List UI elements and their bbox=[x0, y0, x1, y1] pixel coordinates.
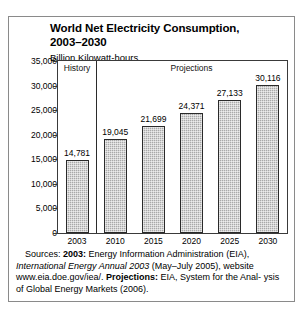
plot-area: History Projections 14,78119,04521,69924… bbox=[57, 60, 288, 234]
plot-inner: History Projections 14,78119,04521,69924… bbox=[58, 61, 287, 233]
bar-group: 19,045 bbox=[104, 61, 127, 233]
source-line1-bold: 2003: bbox=[63, 249, 86, 259]
source-line1-prefix: Sources: bbox=[25, 249, 63, 259]
bar-value-label-2015: 21,699 bbox=[140, 114, 166, 124]
page-title-line2: 2003–2030 bbox=[50, 35, 290, 49]
x-axis-labels: 200320102015202020252030 bbox=[57, 236, 288, 248]
source-line2-rest: (May–July 2005), website bbox=[149, 261, 254, 271]
x-tick-label-2015: 2015 bbox=[134, 236, 172, 247]
bar-group: 24,371 bbox=[180, 61, 203, 233]
x-tick-label-2020: 2020 bbox=[173, 236, 211, 247]
y-tick-label-25000: 25,000 bbox=[13, 105, 57, 115]
source-line3-rest: EIA, System for the Anal- bbox=[158, 272, 261, 282]
source-line2-italic: International Energy Annual 2003 bbox=[16, 261, 149, 271]
source-note: Sources: 2003: Energy Information Admini… bbox=[16, 249, 288, 295]
y-axis-labels: 05,00010,00015,00020,00025,00030,00035,0… bbox=[9, 60, 57, 234]
bar-value-label-2020: 24,371 bbox=[179, 101, 205, 111]
y-tick-label-35000: 35,000 bbox=[13, 56, 57, 66]
bar-group: 14,781 bbox=[66, 61, 89, 233]
bar-2020[interactable] bbox=[180, 113, 203, 233]
bar-2025[interactable] bbox=[218, 100, 241, 233]
x-tick-label-2025: 2025 bbox=[211, 236, 249, 247]
source-line3-bold: Projections: bbox=[106, 272, 158, 282]
bar-value-label-2010: 19,045 bbox=[102, 127, 128, 137]
page-title-line1: World Net Electricity Consumption, bbox=[50, 21, 290, 35]
chart-figure: World Net Electricity Consumption, 2003–… bbox=[8, 16, 295, 302]
bar-2003[interactable] bbox=[66, 160, 89, 233]
y-tick-label-30000: 30,000 bbox=[13, 81, 57, 91]
bar-2010[interactable] bbox=[104, 139, 127, 233]
x-tick-label-2030: 2030 bbox=[249, 236, 287, 247]
bar-group: 30,116 bbox=[256, 61, 279, 233]
y-tick-label-5000: 5,000 bbox=[13, 203, 57, 213]
bar-2030[interactable] bbox=[256, 85, 279, 233]
history-projections-divider bbox=[96, 61, 97, 233]
y-tick-label-10000: 10,000 bbox=[13, 179, 57, 189]
bar-group: 21,699 bbox=[142, 61, 165, 233]
x-tick-label-2010: 2010 bbox=[96, 236, 134, 247]
source-line1-rest: Energy Information Administration (EIA), bbox=[86, 249, 249, 259]
y-tick-label-0: 0 bbox=[13, 228, 57, 238]
source-line3-plain: www.eia.doe.gov/iea/. bbox=[16, 272, 106, 282]
chart-title-block: World Net Electricity Consumption, 2003–… bbox=[50, 21, 290, 64]
y-tick-label-20000: 20,000 bbox=[13, 130, 57, 140]
bar-group: 27,133 bbox=[218, 61, 241, 233]
bar-value-label-2003: 14,781 bbox=[64, 148, 90, 158]
bar-value-label-2030: 30,116 bbox=[255, 73, 280, 83]
y-tick-label-15000: 15,000 bbox=[13, 154, 57, 164]
bar-value-label-2025: 27,133 bbox=[217, 88, 243, 98]
bar-2015[interactable] bbox=[142, 126, 165, 233]
x-tick-label-2003: 2003 bbox=[58, 236, 96, 247]
